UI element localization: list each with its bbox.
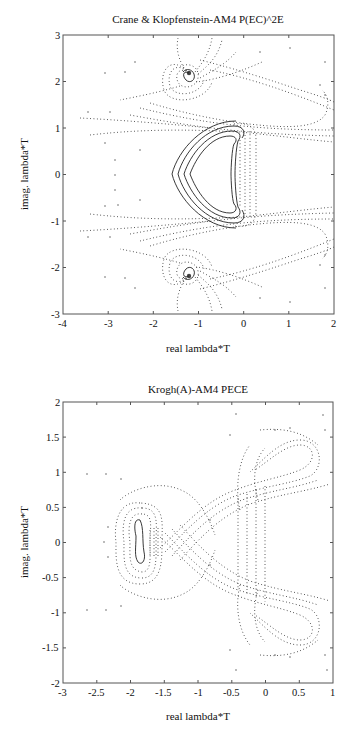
top-x-axis-label: real lambda*T xyxy=(166,342,230,354)
top-x-tickmarks xyxy=(108,35,289,314)
svg-text:-0.5: -0.5 xyxy=(223,687,240,698)
top-chart: Crane & Klopfenstein-AM4 P(EC)^2E -4 -3 … xyxy=(18,13,336,354)
svg-text:-2.5: -2.5 xyxy=(88,687,105,698)
svg-text:-1: -1 xyxy=(51,216,60,227)
top-upper-spiral xyxy=(120,38,262,100)
bottom-y-tickmarks xyxy=(63,437,333,648)
svg-text:2: 2 xyxy=(55,76,60,87)
svg-text:1.5: 1.5 xyxy=(46,432,59,443)
svg-text:-1: -1 xyxy=(194,687,203,698)
svg-text:1: 1 xyxy=(286,318,291,329)
svg-text:-1.5: -1.5 xyxy=(42,642,59,653)
svg-text:-1: -1 xyxy=(51,607,60,618)
bottom-y-axis-label: imag. lambda*T xyxy=(18,506,30,578)
figure: Crane & Klopfenstein-AM4 P(EC)^2E -4 -3 … xyxy=(0,0,357,729)
svg-text:-2: -2 xyxy=(149,318,158,329)
svg-text:-0.5: -0.5 xyxy=(42,572,59,583)
top-lower-spiral xyxy=(120,249,262,311)
svg-text:1: 1 xyxy=(330,687,335,698)
top-y-ticklabels: 3 2 1 0 -1 -2 -3 xyxy=(51,30,60,320)
bottom-chart: Krogh(A)-AM4 PECE -3 -2.5 -2 - xyxy=(18,383,335,722)
svg-text:-3: -3 xyxy=(51,309,60,320)
svg-text:-1.5: -1.5 xyxy=(155,687,172,698)
top-x-ticklabels: -4 -3 -2 -1 0 1 2 xyxy=(58,318,336,329)
svg-text:1: 1 xyxy=(55,123,60,134)
bottom-x-ticklabels: -3 -2.5 -2 -1.5 -1 -0.5 0 0.5 1 xyxy=(58,687,335,698)
top-chart-frame xyxy=(63,35,334,314)
svg-text:1: 1 xyxy=(55,467,60,478)
svg-text:0: 0 xyxy=(55,537,60,548)
svg-text:-3: -3 xyxy=(104,318,113,329)
svg-text:2: 2 xyxy=(55,397,60,408)
svg-text:0.5: 0.5 xyxy=(292,687,305,698)
top-chart-title: Crane & Klopfenstein-AM4 P(EC)^2E xyxy=(112,13,284,26)
top-y-tickmarks xyxy=(63,82,334,268)
svg-text:3: 3 xyxy=(55,30,60,41)
svg-text:-2: -2 xyxy=(51,678,60,689)
svg-text:-1: -1 xyxy=(194,318,203,329)
svg-text:-2: -2 xyxy=(51,262,60,273)
svg-text:0: 0 xyxy=(263,687,268,698)
svg-text:0: 0 xyxy=(241,318,246,329)
bottom-left-lobes xyxy=(115,503,162,584)
bottom-x-tickmarks xyxy=(97,402,299,683)
bottom-plot-area xyxy=(86,413,330,670)
bottom-y-ticklabels: 2 1.5 1 0.5 0 -0.5 -1 -1.5 -2 xyxy=(42,397,60,689)
svg-text:0: 0 xyxy=(55,169,60,180)
bottom-chart-frame xyxy=(63,402,333,683)
svg-text:0.5: 0.5 xyxy=(46,502,59,513)
bottom-x-axis-label: real lambda*T xyxy=(166,710,230,722)
top-scatter-points xyxy=(87,47,325,302)
top-plot-area xyxy=(80,38,334,311)
top-y-axis-label: imag. lambda*T xyxy=(18,138,30,210)
bottom-scatter-points xyxy=(86,413,327,670)
svg-text:-2: -2 xyxy=(126,687,135,698)
svg-text:2: 2 xyxy=(331,318,336,329)
bottom-chart-title: Krogh(A)-AM4 PECE xyxy=(148,383,248,396)
